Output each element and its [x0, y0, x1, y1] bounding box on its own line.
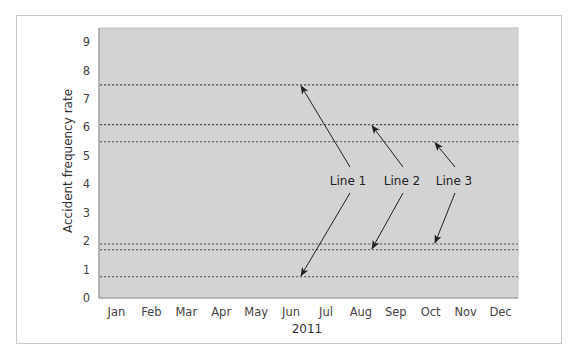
x-tick-label: Jul: [318, 305, 333, 319]
chart: 0123456789 JanFebMarAprMayJunJulAugSepOc…: [0, 0, 574, 364]
y-tick-label: 1: [83, 263, 90, 277]
annotation-label: Line 1: [330, 174, 366, 188]
x-axis-ticks: JanFebMarAprMayJunJulAugSepOctNovDec: [107, 305, 512, 319]
plot-background: [99, 28, 518, 298]
x-tick-label: Oct: [421, 305, 441, 319]
x-tick-label: May: [244, 305, 268, 319]
x-tick-label: Feb: [141, 305, 161, 319]
annotation-label: Line 3: [436, 174, 472, 188]
y-tick-label: 4: [83, 177, 90, 191]
y-tick-label: 6: [83, 120, 90, 134]
x-tick-label: Apr: [211, 305, 231, 319]
x-tick-label: Nov: [454, 305, 477, 319]
x-tick-label: Sep: [385, 305, 407, 319]
plot-area: [99, 28, 518, 298]
y-axis-title: Accident frequency rate: [61, 89, 75, 233]
x-tick-label: Jun: [281, 305, 300, 319]
y-tick-label: 8: [83, 64, 90, 78]
y-tick-label: 0: [83, 291, 90, 305]
x-tick-label: Jan: [107, 305, 126, 319]
x-tick-label: Dec: [489, 305, 511, 319]
x-tick-label: Mar: [175, 305, 197, 319]
y-axis-ticks: 0123456789: [83, 35, 90, 305]
x-axis-title: 2011: [292, 322, 323, 336]
y-tick-label: 3: [83, 206, 90, 220]
y-tick-label: 2: [83, 234, 90, 248]
x-tick-label: Aug: [350, 305, 372, 319]
annotation-label: Line 2: [384, 174, 420, 188]
y-tick-label: 9: [83, 35, 90, 49]
y-tick-label: 7: [83, 92, 90, 106]
y-tick-label: 5: [83, 149, 90, 163]
